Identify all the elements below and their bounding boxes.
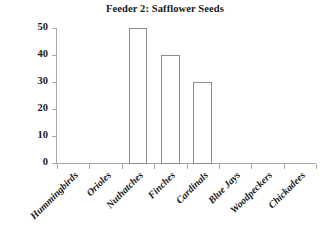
x-axis-tick bbox=[219, 164, 220, 169]
y-axis-tick-label: 30 bbox=[14, 76, 48, 87]
y-axis-tick-label: 10 bbox=[14, 130, 48, 141]
bar bbox=[193, 82, 212, 164]
x-axis-tick bbox=[187, 164, 188, 169]
bar-chart: Feeder 2: Safflower Seeds 01020304050 Hu… bbox=[0, 0, 330, 244]
x-axis-tick bbox=[284, 164, 285, 169]
y-axis-line bbox=[56, 28, 57, 164]
y-axis-tick-label: 40 bbox=[14, 49, 48, 60]
bar bbox=[129, 28, 148, 164]
y-axis-tick bbox=[52, 136, 57, 137]
x-axis-tick bbox=[154, 164, 155, 169]
x-axis-tick bbox=[316, 164, 317, 169]
y-axis-tick bbox=[52, 55, 57, 56]
y-axis-tick-label: 0 bbox=[14, 157, 48, 168]
y-axis-tick bbox=[52, 28, 57, 29]
x-axis-tick bbox=[89, 164, 90, 169]
x-axis-tick bbox=[122, 164, 123, 169]
y-axis-tick-label: 20 bbox=[14, 103, 48, 114]
y-axis-tick-label: 50 bbox=[14, 22, 48, 33]
y-axis-tick bbox=[52, 109, 57, 110]
y-axis-tick bbox=[52, 82, 57, 83]
x-axis-tick bbox=[57, 164, 58, 169]
bar bbox=[161, 55, 180, 164]
x-axis-tick bbox=[251, 164, 252, 169]
chart-title: Feeder 2: Safflower Seeds bbox=[0, 3, 330, 14]
